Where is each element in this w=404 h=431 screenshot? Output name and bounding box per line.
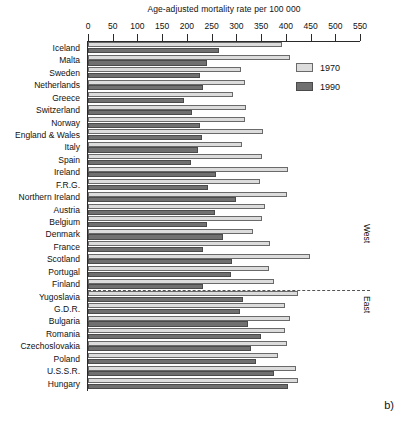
bar-1990 xyxy=(88,222,207,227)
bar-1990 xyxy=(88,60,207,65)
region-divider xyxy=(88,290,370,291)
x-tick-mark xyxy=(137,34,138,41)
bar-1990 xyxy=(88,247,203,252)
category-label: G.D.R. xyxy=(54,303,80,315)
x-tick-label: 0 xyxy=(86,21,91,31)
legend-item-1970: 1970 xyxy=(296,60,396,75)
x-tick-label: 200 xyxy=(180,21,194,31)
bar-1970 xyxy=(88,341,287,346)
x-tick-mark xyxy=(88,34,89,41)
bar-1990 xyxy=(88,85,203,90)
category-label: Spain xyxy=(58,154,80,166)
bar-1990 xyxy=(88,98,184,103)
bar-1990 xyxy=(88,346,251,351)
category-label: Poland xyxy=(54,353,80,365)
bar-1970 xyxy=(88,117,245,122)
bar-row xyxy=(88,378,360,390)
bar-1970 xyxy=(88,291,298,296)
bar-1970 xyxy=(88,192,287,197)
legend-swatch-1990-icon xyxy=(296,82,313,91)
x-tick-mark xyxy=(360,34,361,41)
x-tick-mark xyxy=(187,34,188,41)
category-label: Sweden xyxy=(49,67,80,79)
bar-1990 xyxy=(88,359,256,364)
category-label: Belgium xyxy=(49,216,80,228)
x-tick-label: 150 xyxy=(155,21,169,31)
category-label: Iceland xyxy=(53,42,80,54)
bar-row xyxy=(88,365,360,377)
category-label: France xyxy=(54,241,80,253)
category-label: Portugal xyxy=(48,266,80,278)
legend-swatch-1970-icon xyxy=(296,63,313,72)
bar-1970 xyxy=(88,229,253,234)
x-tick-mark xyxy=(113,34,114,41)
bar-row xyxy=(88,129,360,141)
bar-1970 xyxy=(88,42,282,47)
bar-1970 xyxy=(88,241,270,246)
bar-row xyxy=(88,204,360,216)
bar-1990 xyxy=(88,334,261,339)
legend-item-1990: 1990 xyxy=(296,79,396,94)
x-tick-label: 450 xyxy=(303,21,317,31)
bar-1970 xyxy=(88,254,310,259)
bar-row xyxy=(88,104,360,116)
bar-1990 xyxy=(88,135,202,140)
bar-1970 xyxy=(88,216,262,221)
bar-1970 xyxy=(88,316,290,321)
bar-row xyxy=(88,315,360,327)
bar-1990 xyxy=(88,309,240,314)
bar-1990 xyxy=(88,210,215,215)
category-label: Norway xyxy=(51,117,80,129)
bar-1970 xyxy=(88,167,288,172)
x-tick-label: 50 xyxy=(108,21,117,31)
bar-1970 xyxy=(88,105,246,110)
x-tick-mark xyxy=(236,34,237,41)
bar-row xyxy=(88,166,360,178)
bar-1970 xyxy=(88,67,241,72)
bar-row xyxy=(88,191,360,203)
x-tick-mark xyxy=(261,34,262,41)
mortality-bar-chart: Age-adjusted mortality rate per 100 000 … xyxy=(0,0,404,431)
category-label: Scotland xyxy=(47,253,80,265)
bar-1970 xyxy=(88,179,260,184)
bar-1970 xyxy=(88,328,285,333)
x-tick-mark xyxy=(162,34,163,41)
bar-row xyxy=(88,328,360,340)
bar-1990 xyxy=(88,160,191,165)
bar-1970 xyxy=(88,204,265,209)
bar-1990 xyxy=(88,110,192,115)
bar-row xyxy=(88,117,360,129)
bar-row xyxy=(88,141,360,153)
bar-row xyxy=(88,340,360,352)
bar-row xyxy=(88,216,360,228)
category-label: U.S.S.R. xyxy=(47,365,80,377)
bar-1970 xyxy=(88,55,290,60)
bar-1970 xyxy=(88,266,269,271)
bar-row xyxy=(88,241,360,253)
axis-title: Age-adjusted mortality rate per 100 000 xyxy=(88,4,360,14)
x-tick-label: 550 xyxy=(353,21,367,31)
bar-1990 xyxy=(88,297,243,302)
category-label: Northern Ireland xyxy=(19,191,80,203)
bar-1990 xyxy=(88,185,208,190)
bar-1970 xyxy=(88,279,274,284)
category-label: Czechoslovakia xyxy=(20,340,80,352)
bar-1970 xyxy=(88,303,285,308)
category-label: Hungary xyxy=(48,378,80,390)
bar-1990 xyxy=(88,147,198,152)
x-tick-label: 400 xyxy=(279,21,293,31)
bar-1990 xyxy=(88,259,232,264)
bar-1990 xyxy=(88,321,248,326)
region-label-west: West xyxy=(362,224,372,243)
x-tick-label: 250 xyxy=(205,21,219,31)
x-tick-label: 350 xyxy=(254,21,268,31)
bar-row xyxy=(88,353,360,365)
category-label: F.R.G. xyxy=(56,179,80,191)
bar-1990 xyxy=(88,272,231,277)
bar-1990 xyxy=(88,371,274,376)
category-label: Italy xyxy=(64,141,80,153)
bar-1970 xyxy=(88,353,278,358)
category-label: Finland xyxy=(52,278,80,290)
bar-row xyxy=(88,154,360,166)
bar-row xyxy=(88,42,360,54)
